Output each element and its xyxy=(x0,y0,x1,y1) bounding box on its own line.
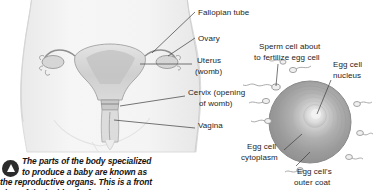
label-ovary: Ovary xyxy=(198,34,220,44)
label-egg-nucleus-line2: nucleus xyxy=(333,71,361,81)
triangle-up-icon xyxy=(2,160,19,177)
sperm-cell xyxy=(251,119,271,124)
label-vagina: Vagina xyxy=(198,121,223,131)
label-egg-cytoplasm-line1: Egg cell xyxy=(247,142,276,152)
figure-canvas: Fallopian tube Ovary Uterus (womb) Cervi… xyxy=(0,0,373,190)
caption-line-3: the reproductive organs. This is a front xyxy=(0,177,234,188)
sperm-cell xyxy=(357,131,373,136)
caption-line-4: view of the inside of a female. xyxy=(0,188,234,190)
figure-caption: The parts of the body specialized to pro… xyxy=(22,156,234,190)
label-egg-nucleus-line1: Egg cell xyxy=(333,60,362,70)
label-sperm-cell-line2: to fertilize egg cell xyxy=(254,53,320,63)
caption-line-1: The parts of the body specialized xyxy=(22,156,234,167)
sperm-cell xyxy=(354,102,372,107)
label-sperm-cell-line1: Sperm cell about xyxy=(259,42,320,52)
sperm-cell xyxy=(249,98,270,103)
label-egg-cytoplasm-line2: cytoplasm xyxy=(241,153,278,163)
label-uterus-womb: (womb) xyxy=(195,67,222,77)
caption-line-2: to produce a baby are known as xyxy=(22,167,234,178)
label-uterus: Uterus xyxy=(197,56,221,66)
label-egg-outer-coat-line2: outer coat xyxy=(294,178,330,188)
label-fallopian-tube: Fallopian tube xyxy=(198,8,249,18)
sperm-cell xyxy=(346,155,363,160)
sperm-cell xyxy=(289,66,311,73)
egg-cell xyxy=(269,81,351,163)
label-egg-outer-coat-line1: Egg cell's xyxy=(297,167,332,177)
label-cervix-of-womb: of womb) xyxy=(199,99,233,109)
sperm-fertilizing xyxy=(243,84,280,90)
label-cervix: Cervix (opening xyxy=(188,88,245,98)
